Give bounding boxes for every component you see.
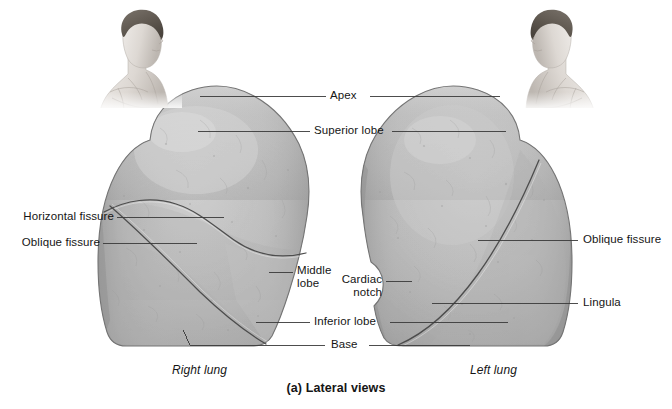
lung-lateral-views-figure: Apex Superior lobe Horizontal fissure Ob… xyxy=(0,0,672,409)
label-apex: Apex xyxy=(330,89,357,102)
figure-caption: (a) Lateral views xyxy=(0,382,672,395)
label-lingula: Lingula xyxy=(583,296,621,309)
label-cardiac-notch: Cardiac notch xyxy=(330,273,382,299)
label-superior-lobe: Superior lobe xyxy=(314,124,384,137)
label-oblique-fissure-left: Oblique fissure xyxy=(583,233,661,246)
label-oblique-fissure-right: Oblique fissure xyxy=(10,236,100,249)
label-horizontal-fissure: Horizontal fissure xyxy=(10,210,114,223)
orientation-figure-right xyxy=(512,10,616,112)
label-base: Base xyxy=(331,338,358,351)
label-left-lung: Left lung xyxy=(470,364,517,377)
label-inferior-lobe: Inferior lobe xyxy=(314,315,376,328)
label-right-lung: Right lung xyxy=(172,364,227,377)
left-lung-illustration xyxy=(350,80,590,355)
right-lung-illustration xyxy=(88,80,320,355)
orientation-figure-left xyxy=(78,10,182,112)
